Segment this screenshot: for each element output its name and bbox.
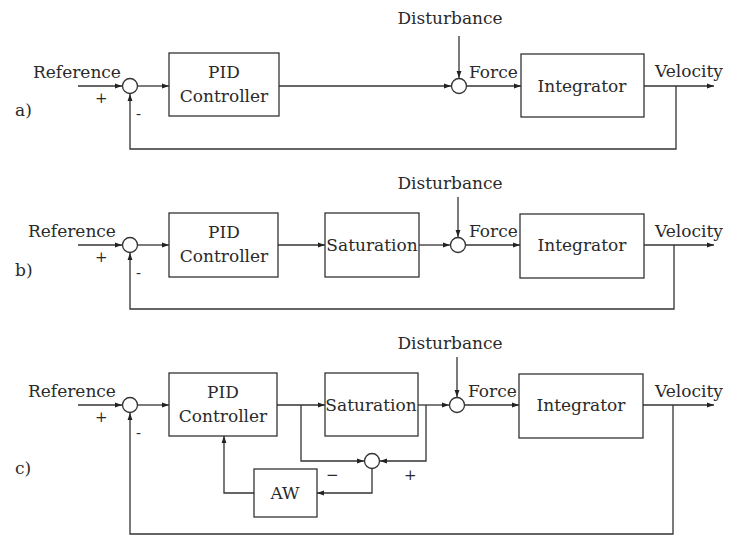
plus-sign: + (95, 408, 108, 426)
integrator-label: Integrator (538, 76, 628, 96)
pid-label: PID (208, 222, 240, 242)
aw-correction-path (224, 436, 254, 493)
reference-label: Reference (33, 62, 121, 82)
disturbance-summing-junction (452, 79, 467, 94)
velocity-label: Velocity (654, 381, 723, 401)
panel-tag: c) (15, 458, 31, 478)
disturbance-label: Disturbance (397, 173, 502, 193)
disturbance-label: Disturbance (397, 333, 502, 353)
disturbance-summing-junction (450, 398, 465, 413)
panel-c: c) Reference + - PID Controller Saturati… (15, 333, 723, 534)
panel-tag: b) (15, 260, 33, 280)
minus-sign: - (136, 264, 141, 282)
controller-label: Controller (180, 86, 269, 106)
plus-sign: + (95, 89, 108, 107)
disturbance-summing-junction (451, 238, 466, 253)
block-diagram-figure: a) Reference + - PID Controller Disturba… (0, 0, 746, 547)
controller-label: Controller (179, 406, 268, 426)
panel-tag: a) (15, 100, 32, 120)
aw-plus-sign: + (404, 466, 417, 484)
reference-label: Reference (28, 381, 116, 401)
disturbance-label: Disturbance (397, 8, 502, 28)
force-label: Force (469, 62, 518, 82)
minus-sign: - (136, 424, 141, 442)
reference-label: Reference (28, 221, 116, 241)
velocity-label: Velocity (654, 61, 723, 81)
panel-b: b) Reference + - PID Controller Saturati… (15, 173, 723, 309)
plus-sign: + (95, 248, 108, 266)
error-summing-junction (123, 238, 138, 253)
error-summing-junction (123, 79, 138, 94)
aw-minus-sign: − (326, 466, 339, 484)
aw-label: AW (269, 483, 300, 503)
saturation-label: Saturation (325, 395, 416, 415)
integrator-label: Integrator (538, 235, 628, 255)
force-label: Force (469, 221, 518, 241)
error-summing-junction (123, 398, 138, 413)
integrator-label: Integrator (537, 395, 627, 415)
pid-label: PID (208, 62, 240, 82)
saturation-label: Saturation (326, 235, 417, 255)
panel-a: a) Reference + - PID Controller Disturba… (15, 8, 723, 149)
controller-label: Controller (180, 246, 269, 266)
pid-label: PID (207, 382, 239, 402)
aw-summing-junction (365, 454, 380, 469)
minus-sign: - (136, 105, 141, 123)
force-label: Force (468, 381, 517, 401)
velocity-label: Velocity (654, 221, 723, 241)
